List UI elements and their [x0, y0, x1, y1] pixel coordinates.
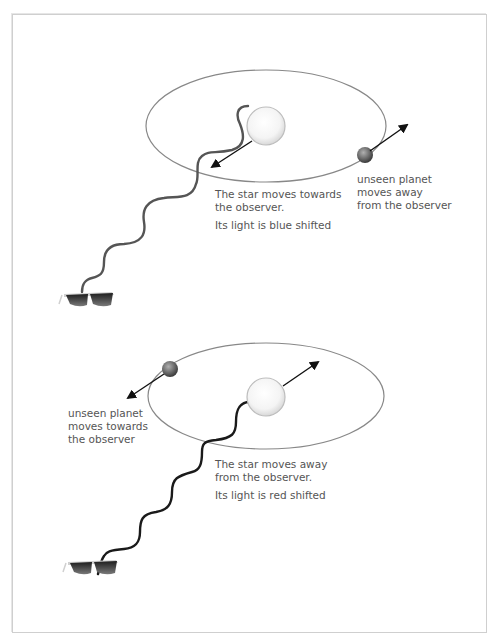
caption-line: the observer	[68, 433, 148, 446]
caption-line: moves away	[357, 186, 452, 199]
caption-line: Its light is blue shifted	[215, 219, 342, 232]
caption-line: unseen planet	[68, 407, 148, 420]
doppler-diagram	[0, 0, 495, 640]
planet-motion-arrow	[370, 125, 407, 151]
caption-line: the observer.	[215, 201, 342, 214]
star-caption-blue: The star moves towards the observer. Its…	[215, 188, 342, 232]
planet-caption-away: unseen planet moves away from the observ…	[357, 173, 452, 212]
star-sphere-icon	[247, 107, 285, 145]
caption-line: The star moves away	[215, 458, 327, 471]
star-motion-arrow	[283, 362, 318, 386]
star-motion-arrow	[212, 141, 252, 167]
star-caption-red: The star moves away from the observer. I…	[215, 458, 327, 502]
planet-caption-towards: unseen planet moves towards the observer	[68, 407, 148, 446]
planet-motion-arrow	[128, 374, 164, 398]
sunglasses-icon	[59, 292, 114, 306]
star-sphere-icon	[247, 378, 285, 416]
planet-sphere-icon	[357, 147, 373, 163]
caption-line: from the observer	[357, 199, 452, 212]
caption-line: Its light is red shifted	[215, 489, 327, 502]
caption-line: from the observer.	[215, 471, 327, 484]
planet-sphere-icon	[162, 361, 178, 377]
sunglasses-icon	[63, 560, 118, 574]
caption-line: The star moves towards	[215, 188, 342, 201]
caption-line: unseen planet	[357, 173, 452, 186]
caption-line: moves towards	[68, 420, 148, 433]
